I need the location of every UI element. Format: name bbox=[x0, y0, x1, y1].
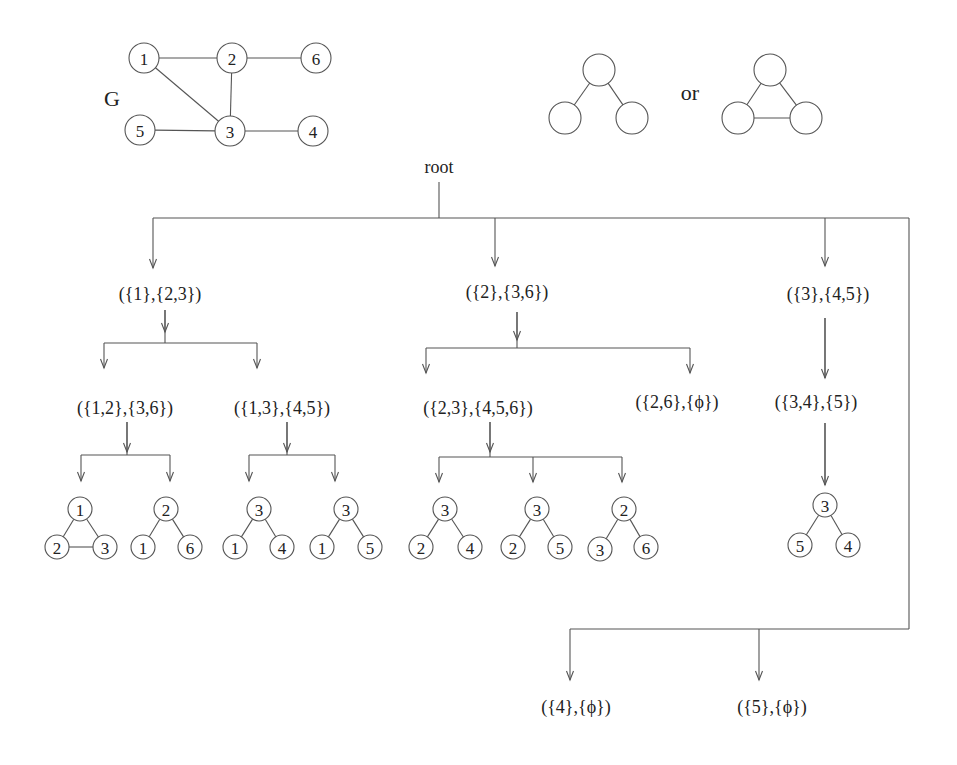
arrow-down-icon bbox=[514, 312, 521, 340]
graph-edge bbox=[63, 519, 74, 536]
path-pattern bbox=[549, 54, 648, 134]
graph-edge bbox=[172, 519, 183, 537]
leaf-subgraph: 236 bbox=[588, 497, 658, 561]
node-label: 2 bbox=[417, 539, 426, 558]
graph-edge bbox=[352, 519, 363, 537]
leaf-node-5: 5 bbox=[788, 533, 812, 557]
node-label: 4 bbox=[278, 539, 287, 558]
node-label: 6 bbox=[312, 50, 321, 69]
node-label: 1 bbox=[139, 539, 148, 558]
arrow-down-icon bbox=[822, 318, 829, 378]
node-circle bbox=[790, 102, 822, 134]
triangle-pattern bbox=[722, 54, 822, 134]
node-label: 1 bbox=[140, 50, 149, 69]
leaf-subgraph: 123 bbox=[45, 497, 117, 559]
node-label: 4 bbox=[466, 539, 475, 558]
leaf-node-4: 4 bbox=[836, 533, 860, 557]
arrow-down-icon bbox=[167, 455, 174, 481]
tree-node-label: ({5},{ϕ}) bbox=[737, 697, 807, 718]
leaf-node-3: 3 bbox=[334, 497, 358, 521]
arrow-down-icon bbox=[101, 343, 108, 368]
node-label: 4 bbox=[844, 537, 853, 556]
leaf-node-1: 1 bbox=[310, 535, 334, 559]
node-label: 2 bbox=[53, 539, 62, 558]
graph-node-1: 1 bbox=[129, 43, 159, 73]
leaf-node-1: 1 bbox=[68, 497, 92, 521]
tree-node-label: ({1},{2,3}) bbox=[119, 284, 202, 305]
search-tree-diagram: 126534 G or root ({1},{2,3})({2},{3,6})(… bbox=[0, 0, 957, 765]
arrow-down-icon bbox=[162, 310, 169, 332]
node-label: 3 bbox=[342, 501, 351, 520]
graph-node-5: 5 bbox=[125, 115, 155, 145]
graph-node-2: 2 bbox=[217, 43, 247, 73]
node-label: 3 bbox=[821, 497, 830, 516]
tree-node-label: ({1,3},{4,5}) bbox=[234, 398, 330, 419]
tree-node-label: ({3,4},{5}) bbox=[775, 392, 858, 413]
graph-node-6: 6 bbox=[301, 43, 331, 73]
graph-edge bbox=[149, 519, 160, 536]
leaf-node-6: 6 bbox=[634, 535, 658, 559]
arrow-down-icon bbox=[284, 422, 291, 452]
leaf-node-5: 5 bbox=[358, 535, 382, 559]
pattern-node bbox=[790, 102, 822, 134]
graph-edge bbox=[452, 519, 464, 537]
leaf-node-3: 3 bbox=[813, 493, 837, 517]
graph-edge bbox=[630, 519, 640, 536]
leaf-subgraph: 216 bbox=[131, 497, 202, 559]
leaf-node-3: 3 bbox=[93, 535, 117, 559]
node-label: 2 bbox=[620, 501, 629, 520]
graph-edge bbox=[608, 83, 623, 105]
leaf-subgraph: 325 bbox=[501, 497, 572, 559]
arrow-down-icon bbox=[150, 218, 157, 268]
tree-node-label: ({2},{3,6}) bbox=[466, 282, 549, 303]
leaf-node-1: 1 bbox=[223, 535, 247, 559]
arrow-down-icon bbox=[756, 629, 763, 680]
node-label: 2 bbox=[509, 539, 518, 558]
pattern-node bbox=[754, 54, 786, 86]
node-label: 3 bbox=[596, 541, 605, 560]
graph-edge bbox=[328, 519, 339, 537]
pattern-node bbox=[722, 102, 754, 134]
graph-edge bbox=[747, 83, 761, 104]
node-label: 5 bbox=[796, 537, 805, 556]
node-circle bbox=[722, 102, 754, 134]
graph-edge bbox=[230, 73, 231, 116]
graph-label: G bbox=[104, 86, 120, 111]
arrow-down-icon bbox=[246, 455, 253, 481]
arrow-down-icon bbox=[822, 218, 829, 266]
node-label: 3 bbox=[255, 501, 264, 520]
node-label: 3 bbox=[533, 501, 542, 520]
arrow-down-icon bbox=[567, 629, 574, 680]
tree-node-label: ({4},{ϕ}) bbox=[541, 697, 611, 718]
arrow-down-icon bbox=[423, 348, 430, 373]
node-label: 2 bbox=[228, 50, 237, 69]
graph-edge bbox=[780, 83, 797, 105]
or-connector-label: or bbox=[681, 80, 700, 105]
leaf-node-4: 4 bbox=[458, 535, 482, 559]
graph-edge bbox=[519, 519, 530, 537]
arrow-down-icon bbox=[124, 422, 131, 452]
graph-edge bbox=[831, 515, 842, 534]
leaf-node-4: 4 bbox=[270, 535, 294, 559]
arrow-down-icon bbox=[78, 455, 85, 481]
leaf-node-2: 2 bbox=[409, 535, 433, 559]
node-label: 3 bbox=[226, 123, 235, 142]
graph-node-3: 3 bbox=[215, 116, 245, 146]
arrow-down-icon bbox=[332, 455, 339, 481]
leaf-node-2: 2 bbox=[501, 535, 525, 559]
node-label: 4 bbox=[309, 123, 318, 142]
arrow-down-icon bbox=[822, 423, 829, 485]
tree-node-label: ({1,2},{3,6}) bbox=[77, 398, 173, 419]
tree-node-labels: ({1},{2,3})({2},{3,6})({3},{4,5})({1,2},… bbox=[77, 282, 869, 718]
arrow-down-icon bbox=[619, 457, 626, 482]
leaf-subgraph: 324 bbox=[409, 497, 482, 559]
graph-edge bbox=[87, 519, 99, 537]
arrow-down-icon bbox=[492, 218, 499, 266]
leaf-node-1: 1 bbox=[131, 535, 155, 559]
graph-edge bbox=[265, 519, 276, 536]
node-label: 1 bbox=[318, 539, 327, 558]
arrow-down-icon bbox=[487, 422, 494, 452]
graph-edge bbox=[427, 519, 438, 537]
node-label: 5 bbox=[136, 122, 145, 141]
node-circle bbox=[583, 54, 615, 86]
